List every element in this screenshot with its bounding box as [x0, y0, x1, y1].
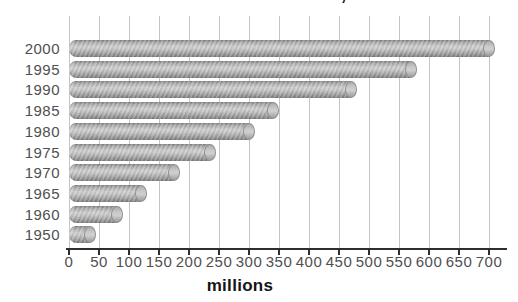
y-axis-label-1950: 1950 — [10, 227, 60, 243]
bar-1985 — [69, 102, 273, 119]
y-axis-label-1965: 1965 — [10, 186, 60, 202]
plot-area: 2000199519901985198019751970196519601950… — [0, 0, 518, 302]
bar-end-cap — [405, 61, 417, 78]
bar-1975 — [69, 144, 210, 161]
bar-2000 — [69, 40, 489, 57]
y-axis-label-1985: 1985 — [10, 103, 60, 119]
bar-end-cap — [135, 185, 147, 202]
y-axis-label-1960: 1960 — [10, 207, 60, 223]
x-axis-title: millions — [90, 276, 390, 296]
x-tick-label-700: 700 — [467, 253, 511, 270]
y-axis-label-1995: 1995 — [10, 62, 60, 78]
bar-end-cap — [243, 123, 255, 140]
bar-1950 — [69, 226, 90, 243]
bar-1980 — [69, 123, 249, 140]
bar-end-cap — [267, 102, 279, 119]
bar-end-cap — [168, 164, 180, 181]
y-axis-label-1975: 1975 — [10, 145, 60, 161]
x-axis-line — [66, 248, 507, 250]
chart-canvas: International tourist arrivals, 1950-200… — [0, 0, 518, 302]
bar-end-cap — [204, 144, 216, 161]
bar-end-cap — [111, 206, 123, 223]
bar-1970 — [69, 164, 174, 181]
bar-1995 — [69, 61, 411, 78]
bar-end-cap — [345, 81, 357, 98]
y-axis-label-1980: 1980 — [10, 124, 60, 140]
bar-1960 — [69, 206, 117, 223]
bar-end-cap — [483, 40, 495, 57]
y-axis-label-2000: 2000 — [10, 41, 60, 57]
y-axis-label-1970: 1970 — [10, 165, 60, 181]
bar-1990 — [69, 81, 351, 98]
bar-end-cap — [84, 226, 96, 243]
bar-1965 — [69, 185, 141, 202]
y-axis-label-1990: 1990 — [10, 82, 60, 98]
